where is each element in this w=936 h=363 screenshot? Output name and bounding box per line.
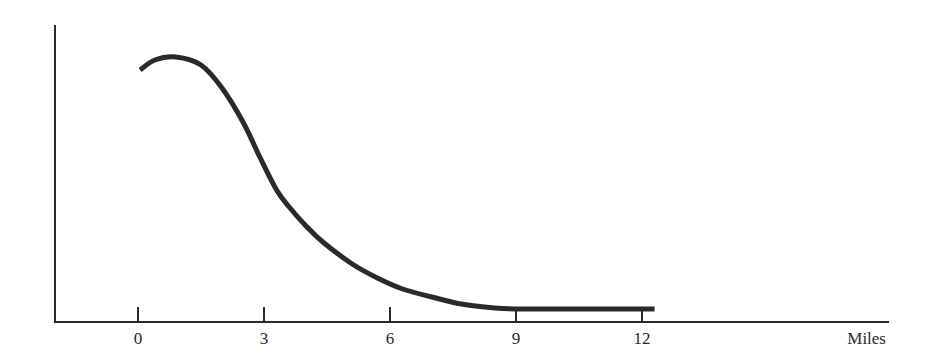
- x-axis-label: Miles: [847, 329, 886, 348]
- x-tick-label: 12: [634, 329, 651, 348]
- chart: 036912 Miles: [0, 0, 936, 363]
- x-tick-label: 6: [386, 329, 395, 348]
- data-curve: [140, 57, 655, 309]
- x-axis: 036912 Miles: [54, 307, 889, 348]
- x-tick-label: 0: [134, 329, 143, 348]
- x-ticks: 036912: [134, 307, 651, 348]
- x-tick-label: 3: [260, 329, 269, 348]
- plot-area: [140, 57, 655, 309]
- x-tick-label: 9: [512, 329, 521, 348]
